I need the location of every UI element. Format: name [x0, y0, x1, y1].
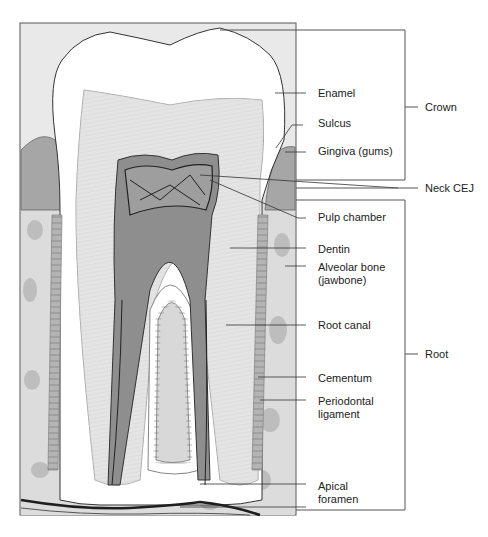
label-enamel: Enamel [318, 87, 355, 100]
label-root-canal: Root canal [318, 319, 371, 332]
region-neck-cej: Neck CEJ [425, 182, 474, 195]
label-cementum: Cementum [318, 372, 372, 385]
label-gingiva: Gingiva (gums) [318, 145, 393, 158]
label-periodontal-ligament: Periodontal ligament [318, 395, 398, 421]
label-dentin: Dentin [318, 243, 350, 256]
label-sulcus: Sulcus [318, 117, 351, 130]
region-root: Root [425, 348, 448, 361]
label-alveolar-bone: Alveolar bone (jawbone) [318, 261, 413, 287]
tooth-anatomy-diagram [0, 0, 488, 537]
label-pulp-chamber: Pulp chamber [318, 211, 386, 224]
label-apical-foramen: Apical foramen [318, 480, 378, 506]
region-crown: Crown [425, 101, 457, 114]
